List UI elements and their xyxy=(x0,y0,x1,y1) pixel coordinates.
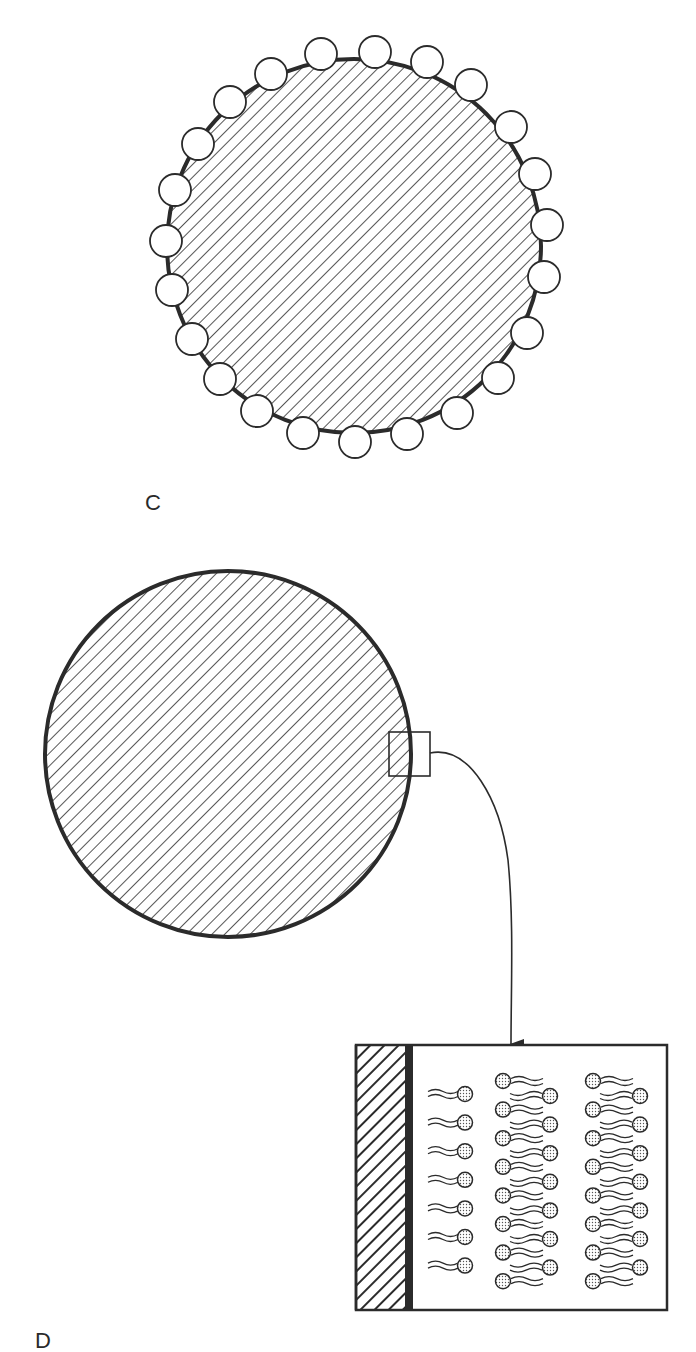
surfactant-head xyxy=(496,1131,511,1146)
adsorbed-bead xyxy=(214,86,246,118)
surfactant-head xyxy=(458,1087,473,1102)
adsorbed-bead xyxy=(511,317,543,349)
adsorbed-bead xyxy=(531,209,563,241)
adsorbed-bead xyxy=(359,36,391,68)
surfactant-head xyxy=(586,1131,601,1146)
adsorbed-bead xyxy=(441,397,473,429)
adsorbed-bead xyxy=(287,417,319,449)
adsorbed-bead xyxy=(339,426,371,458)
panel-label-c: C xyxy=(145,490,161,516)
surfactant-head xyxy=(543,1203,558,1218)
surfactant-head xyxy=(496,1102,511,1117)
surface-detail-box xyxy=(356,1045,667,1310)
surfactant-head xyxy=(458,1144,473,1159)
adsorbed-bead xyxy=(305,38,337,70)
surfactant-head xyxy=(633,1174,648,1189)
surfactant-head xyxy=(586,1159,601,1174)
surfactant-head xyxy=(543,1260,558,1275)
surfactant-head xyxy=(633,1260,648,1275)
adsorbed-bead xyxy=(176,323,208,355)
surfactant-head xyxy=(586,1188,601,1203)
surfactant-head xyxy=(496,1188,511,1203)
surfactant-head xyxy=(543,1146,558,1161)
magnify-arrow xyxy=(430,752,512,1044)
top-particle xyxy=(150,36,563,458)
surfactant-head xyxy=(586,1074,601,1089)
bottom-particle-core xyxy=(45,571,411,937)
surfactant-head xyxy=(496,1217,511,1232)
adsorbed-bead xyxy=(495,111,527,143)
surfactant-head xyxy=(633,1146,648,1161)
adsorbed-bead xyxy=(528,261,560,293)
surfactant-head xyxy=(458,1201,473,1216)
surfactant-head xyxy=(496,1245,511,1260)
substrate-hatch xyxy=(357,1046,406,1309)
adsorbed-bead xyxy=(182,128,214,160)
surfactant-head xyxy=(458,1230,473,1245)
surfactant-head xyxy=(458,1172,473,1187)
bottom-particle xyxy=(45,571,512,1044)
surfactant-head xyxy=(458,1258,473,1273)
surfactant-head xyxy=(496,1074,511,1089)
surfactant-head xyxy=(543,1089,558,1104)
adsorbed-bead xyxy=(519,158,551,190)
surfactant-head xyxy=(543,1117,558,1132)
surfactant-head xyxy=(543,1232,558,1247)
adsorbed-bead xyxy=(159,174,191,206)
surfactant-head xyxy=(586,1274,601,1289)
adsorbed-bead xyxy=(482,362,514,394)
surfactant-head xyxy=(586,1102,601,1117)
adsorbed-bead xyxy=(156,274,188,306)
surfactant-head xyxy=(633,1232,648,1247)
adsorbed-bead xyxy=(455,69,487,101)
surfactant-head xyxy=(633,1203,648,1218)
adsorbed-bead xyxy=(204,363,236,395)
surfactant-head xyxy=(586,1217,601,1232)
surfactant-head xyxy=(496,1159,511,1174)
surfactant-head xyxy=(543,1174,558,1189)
adsorbed-bead xyxy=(411,46,443,78)
panel-label-d: D xyxy=(35,1328,51,1352)
surfactant-head xyxy=(586,1245,601,1260)
adsorbed-bead xyxy=(391,418,423,450)
surfactant-head xyxy=(496,1274,511,1289)
surfactant-head xyxy=(633,1089,648,1104)
adsorbed-bead xyxy=(150,225,182,257)
surfactant-head xyxy=(633,1117,648,1132)
surfactant-head xyxy=(458,1115,473,1130)
substrate-surface-bar xyxy=(405,1046,413,1309)
adsorbed-bead xyxy=(241,395,273,427)
adsorbed-bead xyxy=(255,58,287,90)
